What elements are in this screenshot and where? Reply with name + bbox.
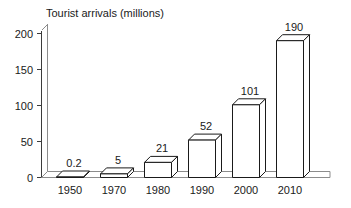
bar-face-1980 [145, 162, 172, 177]
bar-face-1990 [189, 140, 216, 177]
bar-side-2010 [304, 35, 310, 178]
x-axis-label-1950: 1950 [58, 184, 82, 196]
y-axis-label-150: 150 [15, 64, 33, 76]
tourist-arrivals-bar-chart: Tourist arrivals (millions) 200 150 100 … [0, 0, 351, 208]
y-axis-label-200: 200 [15, 28, 33, 40]
x-axis-label-2000: 2000 [234, 184, 258, 196]
bar-2000[interactable] [233, 99, 266, 178]
bar-face-1950 [57, 177, 84, 178]
bar-2010[interactable] [277, 35, 310, 178]
bar-face-2010 [277, 41, 304, 178]
y-axis-label-100: 100 [15, 100, 33, 112]
y-axis [42, 25, 48, 178]
bar-value-label-2010: 190 [285, 21, 303, 33]
bar-1970[interactable] [101, 168, 134, 178]
y-axis-depth-cap [42, 25, 48, 31]
bar-1980[interactable] [145, 156, 178, 177]
bar-face-2000 [233, 105, 260, 178]
chart-container: Tourist arrivals (millions) 200 150 100 … [0, 0, 351, 208]
bar-value-label-2000: 101 [241, 85, 259, 97]
x-axis-label-1970: 1970 [102, 184, 126, 196]
chart-title: Tourist arrivals (millions) [46, 7, 164, 19]
bar-value-label-1970: 5 [115, 154, 121, 166]
x-axis-label-2010: 2010 [278, 184, 302, 196]
bar-face-1970 [101, 174, 128, 178]
bar-1990[interactable] [189, 134, 222, 177]
y-axis-label-0: 0 [27, 172, 33, 184]
x-axis-label-1980: 1980 [146, 184, 170, 196]
y-axis-ticks [37, 34, 42, 178]
bar-side-2000 [260, 99, 266, 178]
y-axis-label-50: 50 [21, 136, 33, 148]
bar-value-label-1950: 0.2 [66, 157, 81, 169]
bar-side-1990 [216, 134, 222, 177]
bar-value-label-1980: 21 [156, 142, 168, 154]
bar-value-label-1990: 52 [200, 120, 212, 132]
bar-1950[interactable] [57, 171, 90, 178]
x-axis-label-1990: 1990 [190, 184, 214, 196]
